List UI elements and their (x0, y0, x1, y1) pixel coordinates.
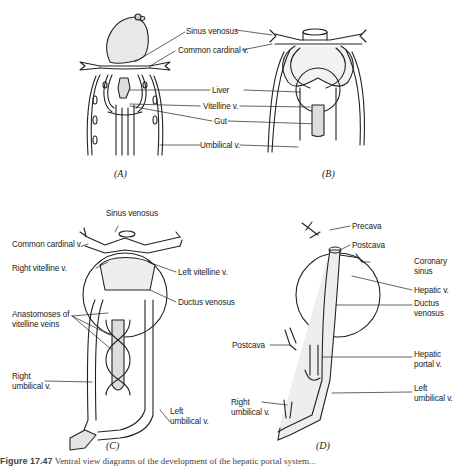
panel-label-a: (A) (114, 168, 127, 179)
panel-label-d: (D) (316, 440, 330, 451)
figure-caption-text: Ventral view diagrams of the development… (55, 456, 316, 466)
label-postcava-left: Postcava (232, 341, 265, 350)
label-coronary-sinus-line2: sinus (414, 267, 433, 276)
label-anastomoses-line2: vitelline veins (12, 320, 59, 329)
label-left-umbilical-c-line1: Left (170, 407, 183, 416)
panel-b-drawing (268, 29, 366, 152)
label-common-cardinal-a: Common cardinal v. (178, 46, 248, 55)
label-left-umbilical-d-line1: Left (414, 384, 427, 393)
label-right-umbilical-d-line1: Right (231, 398, 250, 407)
label-postcava-top: Postcava (352, 241, 385, 250)
label-precava: Precava (352, 222, 381, 231)
label-sinus-venosus-c: Sinus venosus (106, 209, 158, 218)
label-umbilical-v: Umbilical v. (200, 141, 240, 150)
label-ductus-venosus-c: Ductus venosus (178, 298, 235, 307)
figure-caption: Figure 17.47 Ventral view diagrams of th… (0, 456, 316, 466)
panel-a-drawing (80, 14, 170, 155)
label-right-umbilical-c-line1: Right (12, 372, 31, 381)
label-right-umbilical-d-line2: umbilical v. (231, 408, 270, 417)
label-sinus-venosus-a: Sinus venosus (186, 27, 238, 36)
label-liver: Liver (212, 86, 229, 95)
label-right-vitelline: Right vitelline v. (12, 264, 67, 273)
label-vitelline-v: Vitelline v. (203, 102, 238, 111)
label-anastomoses-line1: Anastomoses of (12, 310, 69, 319)
panel-d-drawing (278, 222, 380, 440)
label-hepatic-portal-line2: portal v. (414, 360, 442, 369)
label-left-umbilical-d-line2: umbilical v. (414, 394, 453, 403)
panel-label-c: (C) (106, 440, 119, 451)
label-coronary-sinus-line1: Coronary (414, 257, 447, 266)
label-common-cardinal-c: Common cardinal v. (12, 240, 82, 249)
label-ductus-venosus-d-line2: venosus (414, 309, 444, 318)
label-hepatic-v: Hepatic v. (414, 286, 449, 295)
label-right-umbilical-c-line2: umbilical v. (12, 382, 51, 391)
label-left-umbilical-c-line2: umbilical v. (170, 417, 209, 426)
label-gut: Gut (214, 117, 227, 126)
label-left-vitelline: Left vitelline v. (178, 268, 228, 277)
figure-number: Figure 17.47 (0, 456, 53, 466)
panel-label-b: (B) (322, 168, 335, 179)
label-ductus-venosus-d-line1: Ductus (414, 299, 439, 308)
label-hepatic-portal-line1: Hepatic (414, 350, 441, 359)
